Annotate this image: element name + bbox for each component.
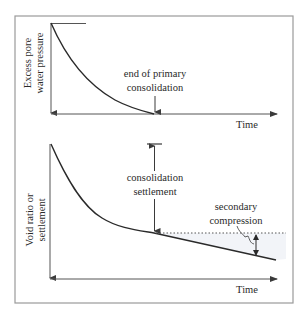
secondary-label-line1: secondary	[215, 201, 258, 212]
end-primary-label-line2: consolidation	[127, 82, 184, 93]
end-primary-label-line1: end of primary	[124, 68, 187, 79]
bottom-panel: consolidation settlement secondary compr…	[24, 144, 286, 295]
bottom-y-label-line1: Void ratio or	[24, 193, 35, 246]
consolidation-label-line1: consolidation	[127, 172, 184, 183]
consolidation-label-line2: settlement	[133, 186, 176, 197]
bottom-x-label: Time	[236, 284, 258, 295]
consolidation-diagram: Excess pore water pressure end of primar…	[0, 0, 305, 317]
secondary-label-line2: compression	[209, 215, 263, 226]
bottom-y-label-line2: settlement	[36, 198, 47, 241]
top-panel: Excess pore water pressure end of primar…	[22, 23, 277, 130]
top-y-label-line1: Excess pore	[22, 37, 33, 88]
top-x-label: Time	[236, 119, 258, 130]
top-y-label-line2: water pressure	[34, 32, 45, 93]
